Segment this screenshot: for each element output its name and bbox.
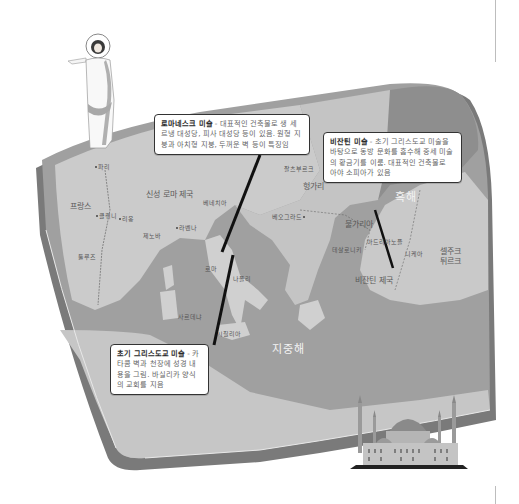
callout-title: 로마네스크 미술 <box>161 119 213 128</box>
region-label: 헝가리 <box>303 180 324 191</box>
region-label: 신성 로마 제국 <box>146 188 193 199</box>
city-label: 테살로니키 <box>332 245 362 254</box>
city-label: 나폴리 <box>233 274 251 283</box>
city-label: 베네치아 <box>203 198 227 207</box>
city-label: 툴루즈 <box>78 252 96 261</box>
sea-label: 지중해 <box>272 340 305 356</box>
city-label: 클뤼니 <box>96 211 117 220</box>
map-illustration: 신성 로마 제국 프랑스 헝가리 불가리아 비잔틴 제국 셀주크 튀르크 흑해 … <box>0 0 519 504</box>
city-label: 제노바 <box>143 231 161 240</box>
city-label: 아드리아노플 <box>367 237 403 246</box>
sea-label: 흑해 <box>395 188 417 204</box>
land-sardinia <box>160 290 178 320</box>
city-label: 시칠리아 <box>217 329 241 338</box>
city-label: 베오그라드 <box>272 212 306 221</box>
callout-early-christian: 초기 그리스도교 미술 - 카타콤 벽과 천장에 성경 내용을 그림. 바실리카… <box>110 344 209 395</box>
callout-title: 비잔틴 미술 <box>330 137 368 146</box>
callout-title: 초기 그리스도교 미술 <box>117 349 185 358</box>
city-label: 리옹 <box>119 214 134 223</box>
callout-byzantine: 비잔틴 미술 - 초기 그리스도교 미술을 바탕으로 동방 문화를 흡수해 중세… <box>323 132 462 183</box>
callout-separator: - <box>213 119 220 128</box>
region-label: 비잔틴 제국 <box>355 274 393 285</box>
city-label: 파리 <box>95 162 110 171</box>
callout-romanesque: 로마네스크 미술 - 대표적인 건축물로 생 세르냉 대성당, 피사 대성당 등… <box>154 114 310 155</box>
region-label: 불가리아 <box>345 218 373 229</box>
city-label: 라벤나 <box>176 223 197 232</box>
region-label: 프랑스 <box>70 200 91 211</box>
jesus-figure-illustration <box>60 30 120 155</box>
city-label: 잘츠부르크 <box>284 164 314 173</box>
callout-separator: - <box>368 137 375 146</box>
city-label: 사르데냐 <box>178 312 202 321</box>
city-label: 니케아 <box>405 249 423 258</box>
city-label: 로마 <box>205 264 217 273</box>
hagia-sophia-illustration <box>338 395 478 475</box>
region-label: 셀주크 튀르크 <box>440 247 462 267</box>
